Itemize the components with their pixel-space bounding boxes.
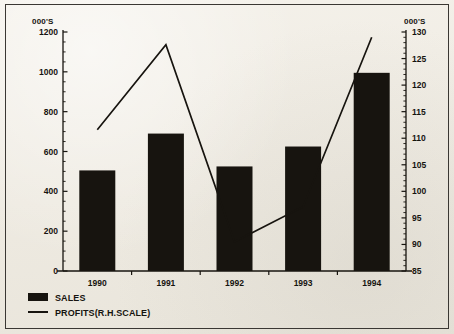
left-axis-tick-label: 800	[44, 107, 58, 117]
legend-sales-swatch	[28, 293, 48, 301]
right-axis-tick-label: 110	[412, 133, 426, 143]
right-axis-tick-label: 85	[412, 266, 422, 276]
right-axis-tick-label: 130	[412, 27, 426, 37]
sales-bar	[354, 73, 390, 271]
dual-axis-bar-line-chart: 000'S 000'S 020040060080010001200 859095…	[0, 0, 454, 334]
left-axis: 020040060080010001200	[39, 27, 67, 276]
category-axis	[57, 271, 412, 275]
sales-bar	[217, 166, 253, 271]
left-axis-tick-label: 200	[44, 226, 58, 236]
right-axis-tick-label: 100	[412, 186, 426, 196]
right-axis-tick-label: 90	[412, 239, 422, 249]
left-axis-unit-label: 000'S	[32, 17, 54, 26]
sales-bar	[285, 147, 321, 271]
right-axis-tick-label: 105	[412, 160, 426, 170]
left-axis-tick-label: 400	[44, 186, 58, 196]
right-axis-unit-label: 000'S	[404, 17, 426, 26]
chart-legend: SALESPROFITS(R.H.SCALE)	[28, 293, 150, 318]
sales-bar	[79, 170, 115, 271]
right-axis-tick-label: 120	[412, 80, 426, 90]
right-axis: 859095100105110115120125130	[402, 27, 427, 276]
right-axis-tick-label: 115	[412, 107, 426, 117]
legend-sales-label: SALES	[55, 293, 86, 303]
category-label: 1991	[156, 278, 175, 288]
chart-page: 000'S 000'S 020040060080010001200 859095…	[0, 0, 454, 334]
category-tick-labels: 19901991199219931994	[88, 278, 382, 288]
category-label: 1990	[88, 278, 107, 288]
legend-profits-label: PROFITS(R.H.SCALE)	[55, 308, 150, 318]
left-axis-tick-label: 600	[44, 147, 58, 157]
right-axis-tick-label: 125	[412, 54, 426, 64]
category-label: 1994	[362, 278, 381, 288]
left-axis-tick-label: 1000	[39, 67, 58, 77]
right-axis-tick-label: 95	[412, 213, 422, 223]
left-axis-tick-label: 1200	[39, 27, 58, 37]
sales-bar	[148, 134, 184, 271]
category-label: 1992	[225, 278, 244, 288]
category-label: 1993	[294, 278, 313, 288]
